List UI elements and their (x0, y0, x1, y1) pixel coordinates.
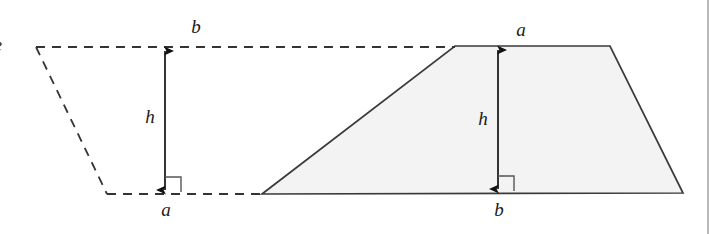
left-top-label-b: b (191, 16, 201, 37)
figure-canvas: b h a a h b e (0, 0, 721, 234)
right-height-label-h: h (478, 108, 488, 129)
left-bottom-label-a: a (161, 199, 171, 220)
right-trapezoid-group (262, 46, 683, 194)
right-trapezoid-shape (262, 46, 683, 194)
cropped-edge-glyph: e (0, 35, 2, 55)
left-height-dimension (165, 51, 181, 192)
left-slant-edge-dashed (36, 47, 107, 194)
left-height-label-h: h (145, 106, 155, 127)
trapezoid-figure: b h a a h b e (0, 0, 721, 234)
right-top-label-a: a (516, 19, 526, 40)
left-right-angle-icon (165, 177, 181, 192)
right-bottom-label-b: b (494, 199, 504, 220)
